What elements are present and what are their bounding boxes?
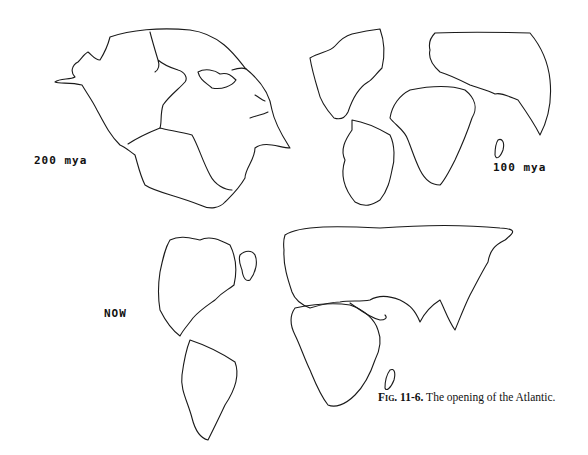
figure-caption-text: The opening of the Atlantic.: [423, 391, 555, 403]
figure-number: Fig. 11-6.: [378, 391, 423, 403]
north-america-now: [159, 237, 236, 336]
map-100mya: [310, 29, 551, 205]
label-now: NOW: [104, 307, 127, 320]
label-200-mya: 200 mya: [34, 154, 87, 167]
continental-drift-diagram: [0, 0, 588, 455]
eurasia-100: [429, 32, 550, 135]
map-pangaea: [55, 29, 290, 208]
figure-caption: Fig. 11-6. The opening of the Atlantic.: [378, 391, 555, 403]
pangaea-rift-north: [150, 32, 186, 128]
africa-now: [291, 304, 380, 406]
pangaea-outline: [55, 29, 290, 208]
pangaea-inner-coast: [250, 95, 268, 118]
africa-100: [390, 87, 475, 185]
pangaea-tethys: [198, 68, 246, 89]
greenland-now: [239, 251, 256, 280]
north-america-100: [310, 29, 384, 119]
madagascar-now: [385, 369, 395, 389]
map-present: [159, 225, 513, 440]
red-sea-now: [350, 303, 386, 320]
eurasia-now: [284, 225, 513, 330]
label-100-mya: 100 mya: [493, 161, 546, 174]
south-america-100: [343, 120, 394, 205]
madagascar-100: [495, 139, 504, 157]
south-america-now: [182, 340, 237, 440]
